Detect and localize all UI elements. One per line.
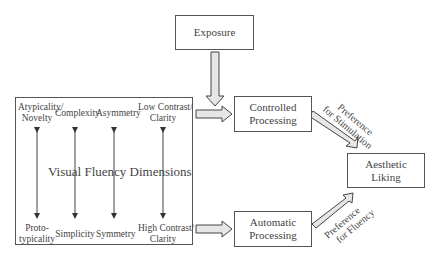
dim-top-atypicality: Atypicality/Novelty [18, 102, 56, 124]
dim-bottom-simplicity: Simplicity [55, 229, 95, 240]
dim-bottom-high-contrast: High Contrast/Clarity [138, 223, 188, 245]
aesthetic-liking-node: AestheticLiking [347, 153, 425, 188]
exposure-arrow [206, 52, 224, 106]
automatic-label-line1: Automatic [249, 216, 297, 229]
exposure-label: Exposure [194, 26, 236, 39]
aesthetic-label-line1: Aesthetic [365, 158, 407, 171]
automatic-label-line2: Processing [249, 229, 297, 242]
to-automatic-arrow [196, 221, 232, 237]
dim-bottom-symmetry: Symmetry [96, 229, 134, 240]
dim-top-complexity: Complexity [55, 108, 95, 119]
exposure-node: Exposure [175, 15, 254, 50]
dim-top-asymmetry: Asymmetry [96, 108, 134, 119]
to-controlled-arrow [196, 106, 232, 122]
dim-bottom-prototypicality: Proto-typicality [18, 223, 56, 245]
aesthetic-label-line2: Liking [365, 171, 407, 184]
controlled-processing-node: ControlledProcessing [234, 96, 312, 132]
dim-top-low-contrast: Low Contrast/Clarity [138, 102, 188, 124]
controlled-label-line2: Processing [249, 114, 297, 127]
automatic-processing-node: AutomaticProcessing [234, 211, 312, 247]
controlled-label-line1: Controlled [249, 101, 297, 114]
dimensions-title: Visual Fluency Dimensions [48, 164, 192, 180]
